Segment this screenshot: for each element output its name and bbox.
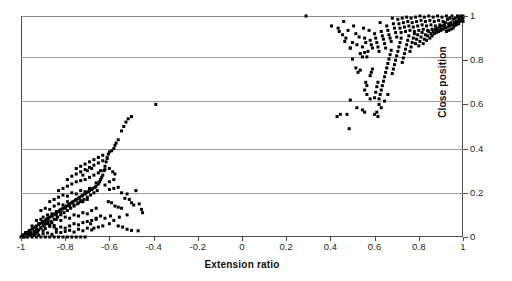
y-tickmark: [463, 149, 468, 150]
y-axis-title: Close position: [437, 22, 448, 142]
y-tick-label: 0.2: [470, 187, 500, 198]
x-tick-label: 0: [222, 241, 262, 252]
x-tick-label: 0.2: [266, 241, 306, 252]
x-tick-label: -0.4: [134, 241, 174, 252]
x-tick-label: 0.6: [355, 241, 395, 252]
y-tickmark: [463, 16, 468, 17]
gridline-0.4: [21, 149, 463, 150]
scatter-chart: -1-0.8-0.6-0.4-0.200.20.40.60.81 00.20.4…: [0, 0, 512, 281]
gridline-0.8: [21, 57, 463, 58]
x-tick-label: 0.4: [310, 241, 350, 252]
y-tick-label: 0.8: [470, 54, 500, 65]
plot-area: [21, 16, 463, 237]
x-tick-label: -0.8: [45, 241, 85, 252]
y-tickmark: [463, 193, 468, 194]
x-tick-label: -0.6: [89, 241, 129, 252]
y-tickmark: [463, 60, 468, 61]
x-tick-label: 0.8: [399, 241, 439, 252]
y-tickmark: [463, 237, 468, 238]
x-tick-label: -1: [1, 241, 41, 252]
y-tick-label: 0.4: [470, 143, 500, 154]
gridline-0.6: [21, 101, 463, 102]
x-axis-title: Extension ratio: [0, 259, 484, 270]
x-tick-label: 1: [443, 241, 483, 252]
y-tick-label: 0: [470, 231, 500, 242]
y-tickmark: [463, 104, 468, 105]
y-tick-label: 1: [470, 10, 500, 21]
x-tick-label: -0.2: [178, 241, 218, 252]
gridline-0.2: [21, 193, 463, 194]
y-tick-label: 0.6: [470, 98, 500, 109]
